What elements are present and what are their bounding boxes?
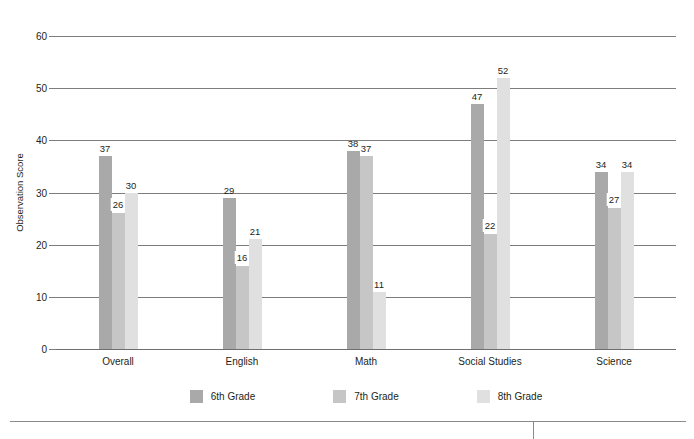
y-tick-mark-50 — [49, 88, 56, 89]
bar-group: 342734Science — [552, 36, 676, 349]
chart-title — [0, 0, 694, 2]
bar[interactable]: 52 — [497, 78, 510, 349]
category-label: Science — [596, 356, 632, 367]
bar[interactable]: 30 — [125, 193, 138, 350]
bar[interactable]: 37 — [99, 156, 112, 349]
y-axis-title: Observation Score — [12, 36, 26, 349]
bar-group-bars: 342734 — [595, 36, 634, 349]
legend-swatch-icon — [477, 390, 490, 403]
bar-value-label: 52 — [497, 65, 510, 76]
bar-group-bars: 372630 — [99, 36, 138, 349]
category-label: Math — [355, 356, 377, 367]
chart-legend: 6th Grade7th Grade8th Grade — [56, 390, 676, 403]
y-tick-label-20: 20 — [36, 239, 47, 250]
bar-value-label: 16 — [235, 251, 250, 264]
y-axis-title-text: Observation Score — [14, 153, 25, 232]
category-label: Overall — [102, 356, 134, 367]
bar-group: 383711Math — [304, 36, 428, 349]
bar-value-label: 38 — [347, 138, 360, 149]
bar-group: 472252Social Studies — [428, 36, 552, 349]
bar-value-label: 47 — [471, 91, 484, 102]
bar[interactable]: 34 — [621, 172, 634, 349]
bar-group-bars: 383711 — [347, 36, 386, 349]
gridline-0 — [56, 349, 676, 350]
bar[interactable]: 38 — [347, 151, 360, 349]
bar[interactable]: 47 — [471, 104, 484, 349]
y-tick-mark-0 — [49, 349, 56, 350]
footer-divider — [10, 421, 686, 422]
legend-item[interactable]: 8th Grade — [477, 390, 542, 403]
bar[interactable]: 22 — [484, 234, 497, 349]
y-tick-mark-10 — [49, 297, 56, 298]
bar-value-label: 22 — [483, 219, 498, 232]
bar[interactable]: 27 — [608, 208, 621, 349]
bar-value-label: 37 — [99, 143, 112, 154]
bar-value-label: 34 — [595, 159, 608, 170]
bar[interactable]: 16 — [236, 266, 249, 349]
bar-value-label: 29 — [223, 185, 236, 196]
bar[interactable]: 11 — [373, 292, 386, 349]
legend-item[interactable]: 6th Grade — [190, 390, 255, 403]
plot-area: 0102030405060 372630Overall291621English… — [56, 36, 676, 349]
bar-value-label: 26 — [111, 198, 126, 211]
bar-value-label: 30 — [125, 180, 138, 191]
category-label: Social Studies — [458, 356, 521, 367]
y-tick-label-50: 50 — [36, 83, 47, 94]
y-tick-mark-30 — [49, 193, 56, 194]
category-label: English — [226, 356, 259, 367]
legend-label: 8th Grade — [498, 391, 542, 402]
bar[interactable]: 37 — [360, 156, 373, 349]
y-tick-mark-20 — [49, 245, 56, 246]
bar-value-label: 27 — [607, 193, 622, 206]
bar[interactable]: 34 — [595, 172, 608, 349]
bar-group-bars: 472252 — [471, 36, 510, 349]
bar[interactable]: 29 — [223, 198, 236, 349]
bar-chart: Observation Score 0102030405060 372630Ov… — [0, 0, 694, 439]
footer-tick-mark — [533, 421, 534, 439]
y-tick-mark-40 — [49, 140, 56, 141]
y-tick-label-40: 40 — [36, 135, 47, 146]
bar-value-label: 37 — [360, 143, 373, 154]
legend-label: 6th Grade — [211, 391, 255, 402]
legend-item[interactable]: 7th Grade — [333, 390, 398, 403]
bar-value-label: 21 — [249, 226, 262, 237]
bar-group: 291621English — [180, 36, 304, 349]
legend-swatch-icon — [190, 390, 203, 403]
bar-value-label: 11 — [373, 279, 385, 290]
y-tick-label-60: 60 — [36, 31, 47, 42]
legend-label: 7th Grade — [354, 391, 398, 402]
bar[interactable]: 26 — [112, 213, 125, 349]
bar[interactable]: 21 — [249, 239, 262, 349]
y-tick-label-0: 0 — [41, 344, 47, 355]
y-tick-mark-60 — [49, 36, 56, 37]
y-tick-label-10: 10 — [36, 291, 47, 302]
y-tick-label-30: 30 — [36, 187, 47, 198]
legend-swatch-icon — [333, 390, 346, 403]
bar-group-bars: 291621 — [223, 36, 262, 349]
bar-value-label: 34 — [621, 159, 634, 170]
bar-group: 372630Overall — [56, 36, 180, 349]
